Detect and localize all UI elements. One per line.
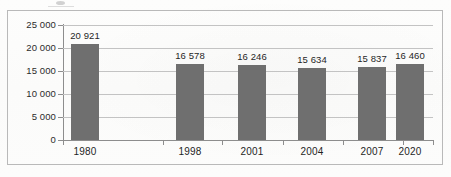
x-axis-category-label-1980: 1980 [61,146,109,158]
bar-2007[interactable] [358,67,386,140]
bar-2001[interactable] [238,65,266,140]
bar-2004[interactable] [298,68,326,140]
bar-value-label-2001: 16 246 [228,52,276,62]
x-tick-mark-4 [343,140,344,145]
plot-area [63,25,433,140]
gridline-20000 [63,48,433,49]
gridline-25000 [63,25,433,26]
y-tick-label-25000: 25 000 [0,20,56,30]
x-axis-category-label-2001: 2001 [228,146,276,158]
x-axis-category-label-2020: 2020 [386,146,434,158]
bar-value-label-1998: 16 578 [166,51,214,61]
bar-1980[interactable] [71,44,99,140]
bar-value-label-2020: 16 460 [386,51,434,61]
x-axis-category-label-2004: 2004 [288,146,336,158]
x-tick-mark-3 [283,140,284,145]
x-tick-mark-0 [63,140,64,145]
y-axis-labels: 05 00010 00015 00020 00025 000 [0,0,56,177]
bar-2020[interactable] [396,64,424,140]
x-tick-mark-1 [163,140,164,145]
scan-artifact-speck [56,1,65,5]
x-axis-category-label-1998: 1998 [166,146,214,158]
y-tick-label-0: 0 [0,135,56,145]
y-tick-mark-10000 [58,94,63,95]
bar-value-label-1980: 20 921 [61,31,109,41]
y-tick-mark-25000 [58,25,63,26]
y-tick-label-15000: 15 000 [0,66,56,76]
y-tick-mark-5000 [58,117,63,118]
x-tick-mark-6 [433,140,434,145]
bar-value-label-2004: 15 634 [288,55,336,65]
x-tick-mark-2 [222,140,223,145]
x-tick-mark-5 [403,140,404,145]
y-tick-label-5000: 5 000 [0,112,56,122]
y-tick-label-20000: 20 000 [0,43,56,53]
bar-1998[interactable] [176,64,204,140]
gridline-0 [63,140,433,141]
chart-page: 05 00010 00015 00020 00025 000 20 921198… [0,0,451,177]
y-tick-mark-15000 [58,71,63,72]
y-tick-mark-20000 [58,48,63,49]
y-tick-label-10000: 10 000 [0,89,56,99]
